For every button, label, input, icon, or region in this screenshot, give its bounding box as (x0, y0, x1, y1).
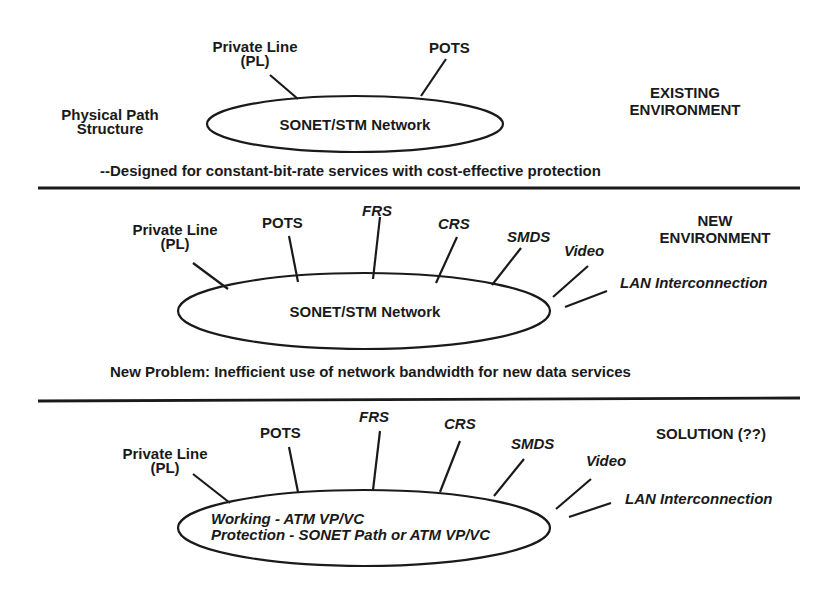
connector-frs-new (373, 217, 380, 279)
panel-title-new-environment: NEW ENVIRONMENT (640, 212, 790, 246)
pl-line2: (PL) (105, 461, 225, 475)
caption-new-problem: New Problem: Inefficient use of network … (110, 364, 631, 379)
divider-2 (38, 398, 800, 401)
title-line1: EXISTING (605, 84, 765, 101)
service-label-lan-new: LAN Interconnection (620, 275, 768, 290)
connector-pl-new (193, 263, 228, 289)
service-label-smds-new: SMDS (507, 229, 550, 244)
connector-smds-new (492, 248, 521, 285)
service-label-frs-new: FRS (362, 203, 392, 218)
service-label-crs-new: CRS (438, 216, 470, 231)
network-label-new: SONET/STM Network (280, 304, 450, 319)
service-label-private-line-existing: Private Line (PL) (190, 40, 320, 68)
connector-pots-solution (289, 447, 298, 492)
connector-crs-solution (440, 441, 460, 492)
service-label-pots-new: POTS (262, 215, 303, 230)
connector-lan-new (565, 291, 607, 307)
connector-frs-solution (373, 431, 380, 490)
service-label-crs-solution: CRS (444, 416, 476, 431)
pl-line2: (PL) (115, 237, 235, 251)
pl-line2: (PL) (190, 54, 320, 68)
service-label-pots-existing: POTS (429, 40, 470, 55)
side-label-physical-path-structure: Physical Path Structure (40, 108, 180, 136)
network-label-existing: SONET/STM Network (270, 117, 440, 132)
service-label-private-line-new: Private Line (PL) (115, 223, 235, 251)
service-label-private-line-solution: Private Line (PL) (105, 447, 225, 475)
service-label-video-new: Video (564, 243, 604, 258)
service-label-smds-solution: SMDS (511, 436, 554, 451)
title-line1: NEW (640, 212, 790, 229)
connector-pots-existing (421, 59, 446, 96)
service-label-video-solution: Video (586, 453, 626, 468)
service-label-frs-solution: FRS (359, 409, 389, 424)
network-working-line: Working - ATM VP/VC (211, 511, 490, 527)
connector-video-new (553, 266, 588, 297)
connector-smds-solution (494, 459, 524, 496)
connector-lan-solution (569, 503, 611, 517)
network-label-solution: Working - ATM VP/VC Protection - SONET P… (211, 511, 490, 543)
side-label-line2: Structure (40, 122, 180, 136)
title-line2: ENVIRONMENT (640, 229, 790, 246)
service-label-pots-solution: POTS (260, 425, 301, 440)
title-line2: ENVIRONMENT (605, 101, 765, 118)
connector-pl-solution (193, 474, 230, 503)
panel-title-existing-environment: EXISTING ENVIRONMENT (605, 84, 765, 118)
caption-existing: --Designed for constant-bit-rate service… (100, 163, 601, 178)
connector-video-solution (556, 479, 591, 509)
service-label-lan-solution: LAN Interconnection (625, 491, 773, 506)
panel-title-solution: SOLUTION (??) (656, 426, 766, 441)
network-protection-line: Protection - SONET Path or ATM VP/VC (211, 527, 490, 543)
connector-pl-existing (270, 75, 298, 99)
